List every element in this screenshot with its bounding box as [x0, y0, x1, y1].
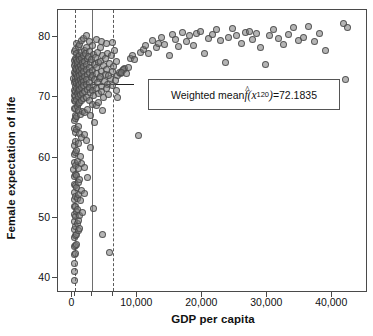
data-point	[71, 260, 78, 267]
x-tick-mark-minor	[91, 292, 92, 296]
data-point	[316, 30, 323, 37]
data-point	[75, 123, 82, 130]
data-point	[166, 52, 173, 59]
x-tick-label: 0	[68, 296, 74, 308]
annotation-arg-open: (x	[248, 89, 257, 101]
data-point	[99, 231, 106, 238]
y-tick-label: 60	[10, 151, 50, 163]
data-point	[87, 144, 94, 151]
x-tick-label: 40,000	[315, 296, 347, 308]
data-point	[213, 26, 220, 33]
data-point	[105, 91, 112, 98]
data-point	[71, 277, 78, 284]
data-point	[125, 64, 132, 71]
data-point	[183, 38, 190, 45]
data-point	[135, 132, 142, 139]
annotation-arg-subscript: 120	[257, 90, 270, 99]
data-point	[266, 32, 273, 39]
x-tick-mark	[331, 292, 332, 297]
x-tick-label: 30,000	[250, 296, 282, 308]
weighted-mean-annotation: Weighted mean ^f(x120) = 72.1835	[148, 79, 340, 110]
plot-area	[57, 9, 367, 292]
data-point	[76, 176, 83, 183]
data-point	[257, 44, 264, 51]
data-point	[72, 250, 79, 257]
data-point	[142, 42, 149, 49]
data-point	[201, 50, 208, 57]
x-axis-label: GDP per capita	[57, 313, 369, 325]
data-point	[344, 24, 351, 31]
data-point	[158, 34, 165, 41]
scatter-plot-figure: Female expectation of life GDP per capit…	[0, 0, 373, 336]
data-point	[290, 24, 297, 31]
data-point	[81, 190, 88, 197]
data-point	[76, 225, 83, 232]
data-point	[225, 34, 232, 41]
data-point	[106, 249, 113, 256]
data-point	[175, 43, 182, 50]
y-tick-label: 50	[10, 211, 50, 223]
data-point	[113, 87, 120, 94]
data-point	[75, 140, 82, 147]
data-point	[253, 30, 260, 37]
data-point	[131, 56, 138, 63]
y-tick-label: 80	[10, 30, 50, 42]
data-point	[342, 76, 349, 83]
data-point	[179, 29, 186, 36]
data-point	[79, 209, 86, 216]
data-point	[73, 241, 80, 248]
data-point	[285, 31, 292, 38]
data-point	[161, 41, 168, 48]
data-point	[229, 25, 236, 32]
data-point	[91, 119, 98, 126]
x-tick-label: 20,000	[185, 296, 217, 308]
data-point	[77, 153, 84, 160]
data-point	[249, 36, 256, 43]
x-tick-mark	[201, 292, 202, 297]
y-tick-label: 70	[10, 90, 50, 102]
y-axis-label: Female expectation of life	[0, 0, 22, 336]
data-point	[190, 42, 197, 49]
data-point	[89, 42, 96, 49]
data-point	[217, 37, 224, 44]
data-point	[280, 41, 287, 48]
data-point	[99, 107, 106, 114]
data-point	[311, 38, 318, 45]
data-point	[197, 28, 204, 35]
data-point	[145, 50, 152, 57]
data-point	[172, 36, 179, 43]
x-tick-mark	[266, 292, 267, 297]
x-tick-mark-minor	[112, 292, 113, 296]
data-point	[83, 137, 90, 144]
x-tick-mark-minor	[74, 292, 75, 296]
data-point	[300, 34, 307, 41]
data-point	[77, 197, 84, 204]
x-tick-mark	[71, 292, 72, 297]
data-point	[71, 268, 78, 275]
data-point	[322, 47, 329, 54]
data-point	[246, 28, 253, 35]
annotation-prefix: Weighted mean	[171, 89, 244, 101]
data-point	[123, 70, 130, 77]
data-point	[81, 164, 88, 171]
data-point	[233, 32, 240, 39]
data-point	[84, 174, 91, 181]
data-point	[90, 205, 97, 212]
y-tick-label: 40	[10, 271, 50, 283]
x-tick-mark	[136, 292, 137, 297]
data-point	[109, 39, 116, 46]
data-point	[262, 61, 269, 68]
data-point	[222, 59, 229, 66]
x-tick-label: 10,000	[120, 296, 152, 308]
data-point	[305, 23, 312, 30]
annotation-value: 72.1835	[279, 89, 317, 101]
annotation-arg-close: )	[269, 89, 273, 101]
data-point	[238, 40, 245, 47]
data-point	[270, 26, 277, 33]
data-point	[114, 94, 121, 101]
